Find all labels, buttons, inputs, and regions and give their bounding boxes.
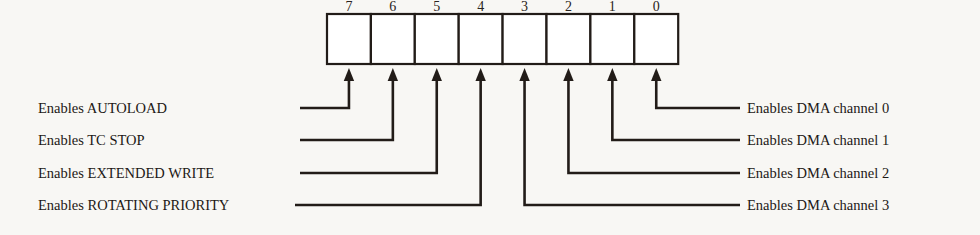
label-bit-6: Enables TC STOP [38,132,145,148]
bit-number-5: 5 [433,0,440,14]
bit-cell-7[interactable] [327,14,371,64]
leader-labels: Enables AUTOLOADEnables TC STOPEnables E… [38,100,889,213]
register-diagram-canvas: 76543210 Enables AUTOLOADEnables TC STOP… [0,0,980,235]
bit-number-6: 6 [389,0,396,14]
arrow-head-bit-0 [651,68,661,81]
label-bit-2: Enables DMA channel 2 [747,165,889,181]
bit-number-3: 3 [521,0,528,14]
bit-number-1: 1 [609,0,616,14]
leader-line-bit-3 [525,80,740,205]
leader-line-bit-7 [300,80,349,108]
label-bit-5: Enables EXTENDED WRITE [38,165,214,181]
label-bit-7: Enables AUTOLOAD [38,100,167,116]
leader-line-bit-1 [612,80,740,140]
arrow-head-bit-1 [607,68,617,81]
label-bit-1: Enables DMA channel 1 [747,132,889,148]
bit-cell-6[interactable] [371,14,415,64]
leader-line-bit-6 [300,80,393,140]
leader-line-bit-0 [656,80,740,108]
arrow-head-bit-6 [388,68,398,81]
arrow-head-bit-2 [563,68,573,81]
leader-line-bit-2 [568,80,740,173]
bit-number-0: 0 [653,0,660,14]
label-bit-4: Enables ROTATING PRIORITY [38,197,230,213]
bit-cell-1[interactable] [590,14,634,64]
arrow-head-bit-7 [344,68,354,81]
label-bit-0: Enables DMA channel 0 [747,100,889,116]
bit-number-2: 2 [565,0,572,14]
bit-number-4: 4 [477,0,484,14]
bit-cell-0[interactable] [634,14,678,64]
arrow-head-bit-4 [475,68,485,81]
leader-line-bit-4 [295,80,481,205]
arrow-head-bit-3 [519,68,529,81]
arrow-head-bit-5 [432,68,442,81]
leader-line-bit-5 [300,80,437,173]
label-bit-3: Enables DMA channel 3 [747,197,889,213]
leader-lines [295,68,740,205]
bit-cell-2[interactable] [547,14,591,64]
bit-cell-4[interactable] [459,14,503,64]
bit-cells [327,14,678,64]
bit-cell-5[interactable] [415,14,459,64]
bit-register-diagram: 76543210 Enables AUTOLOADEnables TC STOP… [0,0,980,235]
bit-number-labels: 76543210 [345,0,659,14]
bit-cell-3[interactable] [503,14,547,64]
bit-number-7: 7 [345,0,352,14]
